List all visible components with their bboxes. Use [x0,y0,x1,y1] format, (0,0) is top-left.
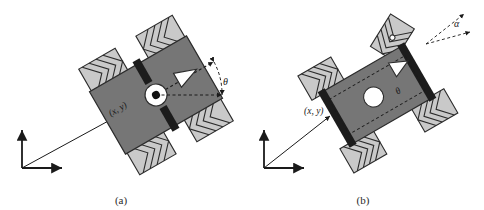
robot-a: (x, y) [77,9,242,176]
caption-b: (b) [242,194,484,206]
position-label-b: (x, y) [304,106,324,117]
alpha-label-b: α [454,18,460,29]
theta-label-a: θ [223,76,228,87]
figure-root: (x, y) θ (a) [0,0,484,210]
robot-b: θ [294,8,461,173]
steering-angle-group-b: α [426,14,470,44]
wheel-axis-arrow-b [426,32,470,44]
panel-a-diagram: (x, y) θ [0,0,242,210]
panel-b-diagram: θ (x, y) α [242,0,484,210]
panel-a: (x, y) θ (a) [0,0,242,210]
position-vector-b [264,116,330,168]
world-frame-b [264,130,304,168]
panel-b: θ (x, y) α (b) [242,0,484,210]
caption-a: (a) [0,194,242,206]
